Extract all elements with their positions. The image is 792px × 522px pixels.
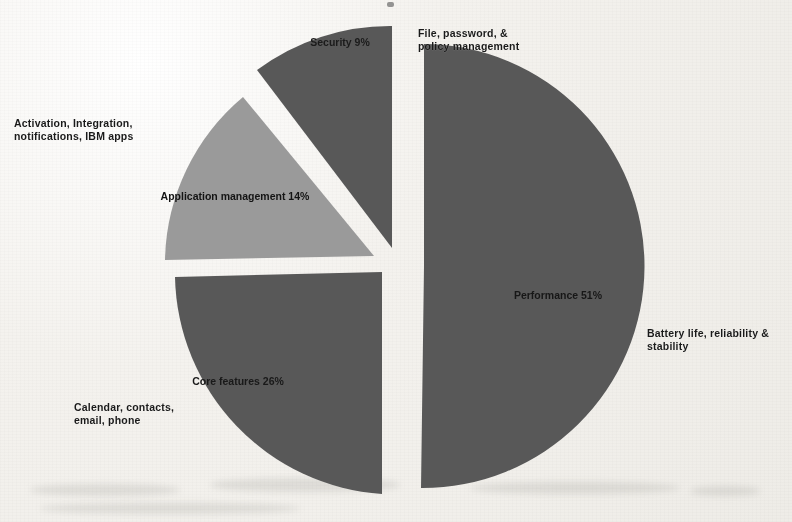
pie-label-core-features: Core features 26% [178, 375, 298, 388]
pie-callout-application-management: Activation, Integration, notifications, … [14, 117, 134, 142]
pie-label-performance: Performance 51% [503, 289, 613, 302]
pie-label-application-management: Application management 14% [146, 190, 324, 203]
pie-callout-core-features: Calendar, contacts, email, phone [74, 401, 174, 426]
pie-chart: Performance 51% Core features 26% Applic… [0, 0, 792, 522]
pie-callout-security: File, password, & policy management [418, 27, 519, 52]
pie-label-security: Security 9% [299, 36, 381, 49]
pie-chart-svg [0, 0, 792, 522]
pie-callout-performance: Battery life, reliability & stability [647, 327, 769, 352]
pie-slice-performance[interactable] [421, 44, 645, 488]
